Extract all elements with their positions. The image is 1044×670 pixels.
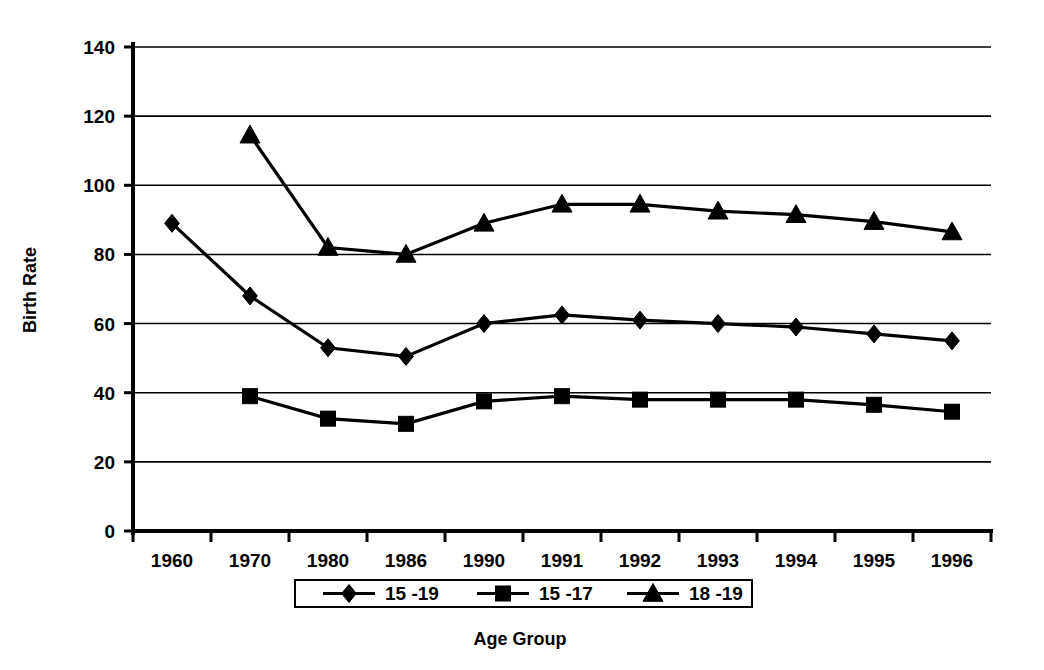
gridlines	[133, 47, 991, 531]
x-axis-tick-labels: 1960197019801986199019911992199319941995…	[151, 550, 973, 571]
y-axis-title: Birth Rate	[20, 247, 40, 333]
x-tick-label: 1990	[463, 550, 505, 571]
series-15-17	[243, 389, 960, 432]
diamond-marker	[711, 315, 726, 333]
series-line	[172, 223, 952, 356]
y-tick-label: 80	[94, 244, 115, 265]
x-tick-label: 1992	[619, 550, 661, 571]
square-marker	[399, 416, 414, 431]
diamond-marker	[945, 332, 960, 350]
birth-rate-line-chart: 020406080100120140 196019701980198619901…	[0, 0, 1044, 670]
series-15-19	[165, 214, 960, 365]
square-marker	[555, 389, 570, 404]
x-tick-label: 1960	[151, 550, 193, 571]
data-series-layer	[165, 125, 962, 431]
y-tick-label: 100	[83, 175, 115, 196]
square-marker	[711, 392, 726, 407]
square-marker	[867, 397, 882, 412]
y-tick-label: 0	[104, 521, 115, 542]
diamond-marker	[867, 325, 882, 343]
y-tick-label: 120	[83, 106, 115, 127]
diamond-marker	[321, 339, 336, 357]
x-tick-label: 1991	[541, 550, 584, 571]
x-tick-label: 1980	[307, 550, 349, 571]
diamond-marker	[555, 306, 570, 324]
x-axis-title: Age Group	[474, 629, 567, 649]
y-tick-label: 60	[94, 314, 115, 335]
square-marker	[243, 389, 258, 404]
x-tick-label: 1996	[931, 550, 973, 571]
y-tick-label: 140	[83, 37, 115, 58]
series-line	[250, 396, 952, 424]
x-tick-label: 1993	[697, 550, 739, 571]
diamond-marker	[789, 318, 804, 336]
square-marker	[789, 392, 804, 407]
y-tick-label: 20	[94, 452, 115, 473]
y-axis-tick-labels: 020406080100120140	[83, 37, 115, 542]
x-tick-label: 1995	[853, 550, 896, 571]
series-line	[250, 135, 952, 254]
square-marker	[477, 394, 492, 409]
series-18-19	[240, 125, 962, 262]
x-tick-label: 1986	[385, 550, 427, 571]
chart-figure: 020406080100120140 196019701980198619901…	[0, 0, 1044, 670]
square-marker	[633, 392, 648, 407]
legend-label: 18 -19	[689, 583, 743, 604]
legend-label: 15 -17	[539, 583, 593, 604]
diamond-marker	[477, 315, 492, 333]
square-marker	[496, 586, 511, 601]
x-tick-label: 1994	[775, 550, 818, 571]
diamond-marker	[633, 311, 648, 329]
diamond-marker	[399, 347, 414, 365]
square-marker	[321, 411, 336, 426]
y-tick-label: 40	[94, 383, 115, 404]
square-marker	[945, 404, 960, 419]
x-tick-label: 1970	[229, 550, 271, 571]
triangle-marker	[240, 125, 260, 143]
legend-label: 15 -19	[385, 583, 439, 604]
chart-legend: 15 -1915 -1718 -19	[295, 580, 752, 607]
